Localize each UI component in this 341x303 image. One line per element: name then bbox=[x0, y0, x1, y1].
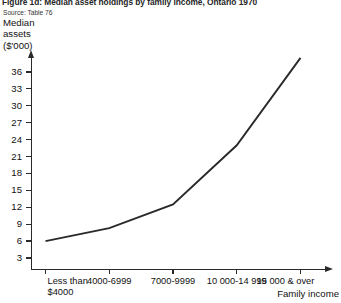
plot-area: 369121518212427303336 Less than $4000400… bbox=[0, 0, 341, 303]
x-axis-title: Family income bbox=[277, 288, 339, 299]
median-assets-line bbox=[46, 58, 301, 241]
figure-container: Figure 1d: Median asset holdings by fami… bbox=[0, 0, 341, 303]
data-series-layer bbox=[0, 0, 341, 303]
